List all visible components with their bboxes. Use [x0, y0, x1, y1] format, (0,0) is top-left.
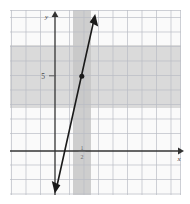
graph-canvas: y x 5 1 2	[0, 0, 190, 204]
fraction-denominator: 2	[81, 154, 84, 160]
coordinate-plane-figure: y x 5 1 2	[0, 0, 190, 204]
fraction-numerator: 1	[81, 145, 84, 151]
y-tick-label-5: 5	[41, 72, 45, 81]
point-marker	[79, 74, 84, 79]
horizontal-shaded-band	[10, 45, 181, 108]
